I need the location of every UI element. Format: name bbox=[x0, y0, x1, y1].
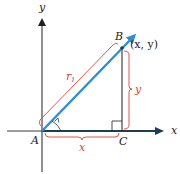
diagram-canvas: y x r y x A B (x, y) C bbox=[0, 0, 180, 174]
right-angle-marker bbox=[112, 121, 122, 131]
point-b-label: B bbox=[114, 30, 123, 43]
y-axis-label: y bbox=[38, 1, 46, 14]
bracket-y-label: y bbox=[134, 83, 142, 96]
angle-arc bbox=[52, 121, 61, 131]
point-a-label: A bbox=[30, 134, 39, 147]
bracket-r-label: r bbox=[66, 70, 72, 83]
point-b-dot bbox=[120, 46, 124, 50]
bracket-x-label: x bbox=[79, 141, 86, 154]
bracket-x bbox=[45, 133, 119, 140]
bracket-y bbox=[124, 51, 132, 129]
vector-r bbox=[42, 36, 134, 131]
point-b-coordinates: (x, y) bbox=[130, 38, 158, 51]
bracket-r bbox=[39, 43, 118, 126]
point-c-label: C bbox=[119, 135, 128, 148]
x-axis-label: x bbox=[171, 124, 178, 137]
